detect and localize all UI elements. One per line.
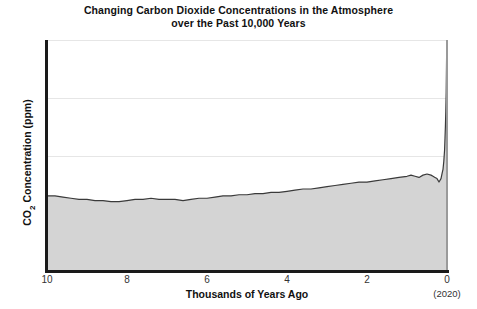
y-axis-line	[45, 40, 48, 272]
y-axis-title-text: CO2 Concentration (ppm)	[21, 99, 33, 225]
chart-title-line-1: Changing Carbon Dioxide Concentrations i…	[0, 4, 477, 17]
co2-area-fill	[47, 40, 447, 271]
chart-root: Changing Carbon Dioxide Concentrations i…	[0, 0, 477, 309]
x-tick-label-6: 6	[187, 274, 227, 285]
y-axis-title: CO2 Concentration (ppm)	[21, 78, 36, 248]
y-axis-title-rest: Concentration (ppm)	[21, 99, 33, 205]
co2-area-series	[47, 40, 447, 271]
x-tick-label-10: 10	[27, 274, 67, 285]
x-tick-label-8: 8	[107, 274, 147, 285]
co2-line	[47, 40, 447, 202]
chart-title-line-2: over the Past 10,000 Years	[0, 17, 477, 30]
plot-area	[47, 40, 447, 271]
x-axis-title: Thousands of Years Ago	[47, 288, 447, 300]
x-axis-line	[45, 270, 449, 273]
x-tick-label-4: 4	[267, 274, 307, 285]
x-tick-label-0: 0	[427, 274, 467, 285]
plot-right-border	[446, 40, 448, 272]
x-axis-year-label: (2020)	[417, 288, 477, 299]
y-axis-title-subscript: 2	[28, 206, 37, 210]
x-tick-label-2: 2	[347, 274, 387, 285]
chart-title: Changing Carbon Dioxide Concentrations i…	[0, 4, 477, 29]
